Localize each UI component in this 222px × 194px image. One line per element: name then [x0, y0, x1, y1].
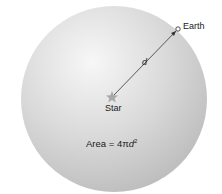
formula-prefix: Area = 4 — [86, 138, 122, 149]
formula-exponent: 2 — [134, 138, 137, 144]
earth-label: Earth — [183, 22, 205, 31]
area-formula: Area = 4πd2 — [86, 138, 137, 149]
distance-label: d — [142, 58, 147, 67]
earth-icon — [176, 27, 180, 31]
star-label: Star — [105, 104, 122, 113]
